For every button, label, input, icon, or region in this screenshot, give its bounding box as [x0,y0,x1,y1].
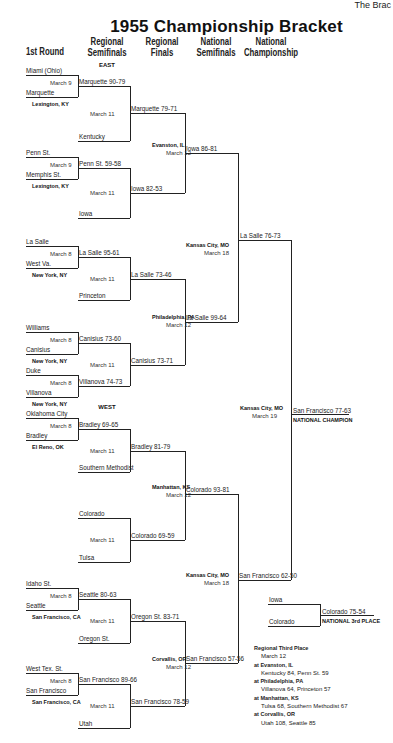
game-date: March 11 [90,276,115,282]
game-date: March 19 [252,413,277,419]
region-east: EAST [92,62,122,68]
result-label: Marquette 90-79 [79,78,125,85]
game-site: Corvallis, OR [152,656,187,662]
bracket-line [26,157,78,158]
bracket-line [26,246,78,247]
bracket-line [130,279,185,280]
third-place-subtitle: NATIONAL 3rd PLACE [322,618,380,624]
header-regional-semifinals: Regional Semifinals [83,36,131,58]
game-site: El Reno, OK [32,444,64,450]
notes-title: Regional Third Place [254,644,348,652]
result-label: Colorado 69-59 [131,532,174,539]
bracket-line [26,354,78,355]
team-name: Villanova 74-73 [79,378,122,385]
bracket-line [26,97,78,98]
team-name: Kentucky [79,133,105,140]
result-label: Colorado [79,510,105,517]
bracket-line [78,684,130,685]
result-label: Colorado 93-81 [186,486,229,493]
bracket-line [26,610,78,611]
bracket-line [130,706,185,707]
bracket-line [130,193,185,194]
game-date: March 8 [50,251,72,257]
bracket-line [268,626,320,627]
result-label: Canisius 73-60 [79,335,121,342]
bracket-line [185,663,238,664]
game-date: March 8 [50,678,72,684]
bracket-line [78,300,130,301]
game-site: New York, NY [32,401,67,407]
bracket-line [26,397,78,398]
game-site: Kansas City, MO [186,242,229,248]
game-date: March 8 [50,423,72,429]
bracket-line [26,695,78,696]
result-label: Bradley 81-79 [131,443,170,450]
game-site: New York, NY [32,358,67,364]
team-name: Memphis St. [26,171,61,178]
result-label: San Francisco 78-59 [131,698,189,705]
bracket-line [78,562,130,563]
team-name: Seattle [26,602,46,609]
bracket-line [130,540,185,541]
result-label: San Francisco 89-66 [79,676,137,683]
bracket-line [78,386,130,387]
team-name: Utah [79,720,92,727]
bracket-line [130,113,185,114]
notes-date: March 12 [254,652,348,660]
bracket-line [26,673,78,674]
bracket-line [78,86,130,87]
result-label: La Salle 76-73 [240,232,281,239]
team-name: Marquette [26,89,54,96]
result-label: La Salle 95-61 [79,249,120,256]
result-label: La Salle 99-64 [186,314,227,321]
result-label: Marquette 79-71 [131,105,177,112]
bracket-line [26,375,78,376]
result-label: Colorado 75-54 [322,608,365,615]
result-label: Seattle 80-63 [79,591,116,598]
team-name: Penn St. [26,149,50,156]
game-site: Manhattan, KS [152,484,190,490]
bracket-line [130,621,185,622]
game-date: March 11 [90,618,115,624]
bracket-line [185,494,238,495]
game-site: New York, NY [32,272,67,278]
bracket-line [78,429,130,430]
team-name: Southern Methodist [79,464,134,471]
team-name: Oregon St. [79,635,109,642]
bracket-line [26,588,78,589]
header-national-semifinals: National Semifinals [192,36,240,58]
bracket-line [130,365,185,366]
game-date: March 18 [204,580,229,586]
notes-result: Kentucky 84, Penn St. 59 [254,669,348,677]
team-name: Tulsa [79,554,94,561]
result-label: Iowa 82-53 [131,185,162,192]
bracket-line [78,343,130,344]
result-label: Penn St. 59-58 [79,160,121,167]
game-date: March 8 [50,593,72,599]
bracket-line [78,218,130,219]
team-name: Canisius [26,346,50,353]
bracket-line [185,322,238,323]
notes-site: at Philadelphia, PA [254,677,348,685]
team-name: Duke [26,367,41,374]
bracket-line [130,451,185,452]
game-date: March 11 [90,190,115,196]
game-date: March 12 [166,664,191,670]
bracket-line [291,240,292,580]
game-date: March 11 [90,537,115,543]
result-label: San Francisco 57-56 [186,655,244,662]
bracket-line [268,604,320,605]
page-title: 1955 Championship Bracket [0,17,393,37]
result-label: San Francisco 62-50 [239,572,297,579]
game-site: Lexington, KY [32,183,69,189]
bracket-line [238,240,291,241]
game-site: Evanston, IL [152,142,185,148]
game-site: Lexington, KY [32,101,69,107]
team-name: Williams [26,324,49,331]
bracket-line [78,168,130,169]
notes-site: at Corvallis, OR [254,710,348,718]
bracket-line [185,153,238,154]
bracket-line [26,418,78,419]
game-site: Kansas City, MO [240,405,283,411]
game-date: March 9 [50,162,72,168]
